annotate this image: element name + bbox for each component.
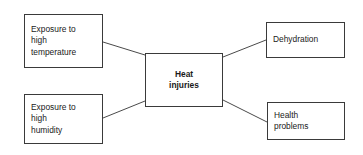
connector-center-to-dehydration — [223, 40, 266, 57]
node-text-line: Heat — [175, 69, 193, 80]
concept-map-diagram: Exposure to high temperature Exposure to… — [0, 0, 363, 155]
node-exposure-to-high-temperature: Exposure to high temperature — [24, 14, 103, 68]
connector-center-to-health-problems — [223, 100, 267, 122]
node-text-line: humidity — [31, 125, 62, 136]
node-text-line: Exposure to — [31, 102, 76, 113]
node-text-line: temperature — [31, 47, 76, 58]
node-exposure-to-high-humidity: Exposure to high humidity — [24, 94, 103, 144]
node-text-line: high — [31, 113, 47, 124]
connector-temperature-to-center — [103, 42, 145, 55]
node-text-line: Health — [274, 110, 298, 121]
node-heat-injuries: Heat injuries — [145, 53, 223, 107]
node-text-line: Dehydration — [273, 34, 318, 45]
node-text-line: problems — [274, 121, 308, 132]
connector-humidity-to-center — [103, 101, 145, 118]
node-health-problems: Health problems — [267, 102, 345, 140]
node-dehydration: Dehydration — [266, 22, 345, 58]
node-text-line: high — [31, 35, 47, 46]
node-text-line: Exposure to — [31, 24, 76, 35]
node-text-line: injuries — [169, 80, 199, 91]
